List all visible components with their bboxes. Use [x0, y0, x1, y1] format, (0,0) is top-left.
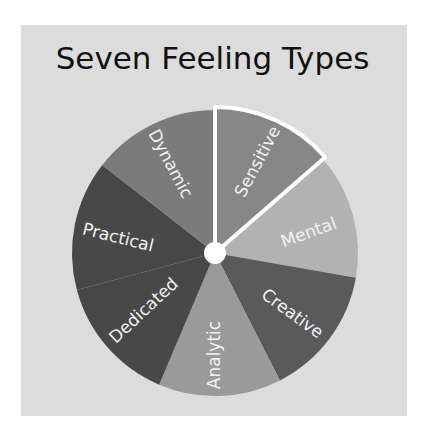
- pie-chart: Dynamic Sensitive Mental Creative Analyt…: [0, 0, 425, 439]
- hub-dot: [204, 242, 226, 264]
- label-analytic: Analytic: [204, 321, 224, 389]
